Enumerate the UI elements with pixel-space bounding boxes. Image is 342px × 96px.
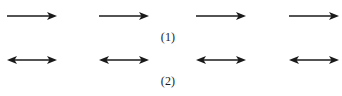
arrow-1-4 [288, 8, 340, 24]
arrow-1-1 [6, 8, 58, 24]
row-1-label: (1) [138, 30, 198, 45]
arrow-2-2 [98, 52, 150, 68]
arrow-1-3 [195, 8, 247, 24]
arrow-2-3 [195, 52, 247, 68]
arrow-1-2 [98, 8, 150, 24]
arrow-diagram: (1) [0, 0, 342, 96]
arrow-2-1 [6, 52, 58, 68]
row-2-label: (2) [138, 74, 198, 89]
arrow-2-4 [288, 52, 340, 68]
